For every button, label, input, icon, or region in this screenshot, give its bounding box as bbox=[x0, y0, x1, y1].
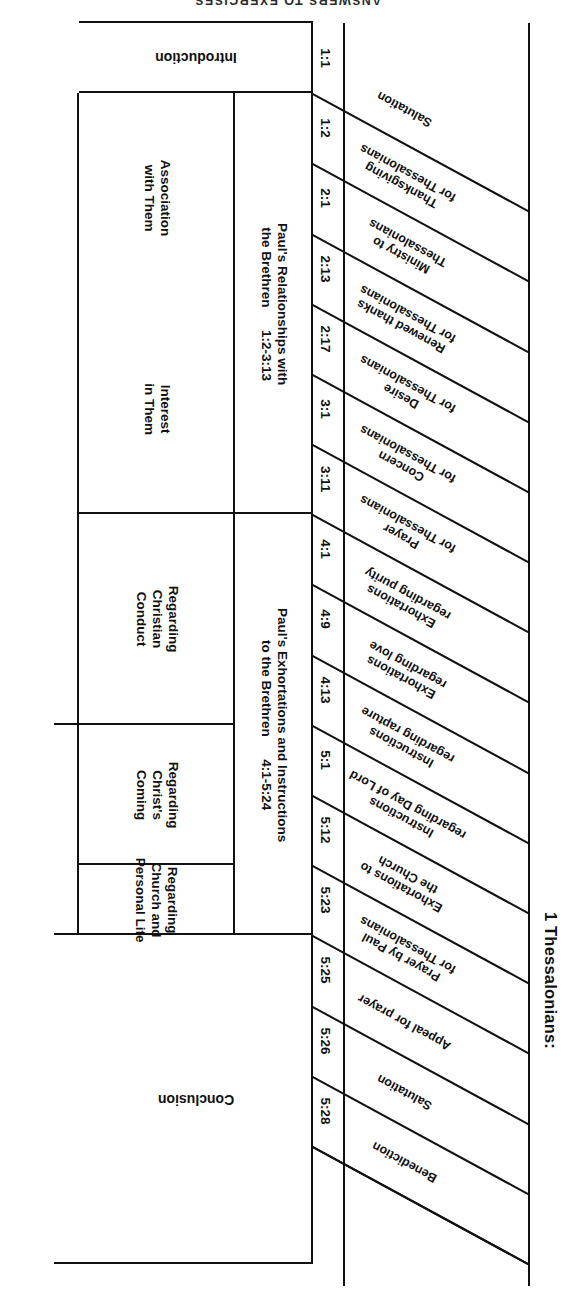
book-division-cell-conclusion: Conclusion bbox=[79, 935, 313, 1264]
sub-division-rule-mid bbox=[79, 512, 235, 514]
outline-chart: 1:1Salutation1:2Thanksgiving for Thessal… bbox=[0, 0, 575, 1309]
sub-division-label: Association with Them bbox=[141, 160, 173, 237]
sub-division-label: Regarding Christian Conduct bbox=[133, 586, 181, 653]
sub-division-label: Regarding Church and Personal Life bbox=[133, 858, 181, 943]
major-division-label: Paul's Exhortations and Instructions to … bbox=[258, 608, 290, 842]
book-division-cell-introduction: Introduction bbox=[79, 23, 313, 93]
major-division-label: Paul's Relationships with the Brethren 1… bbox=[258, 223, 290, 385]
book-division-label: Conclusion bbox=[158, 1091, 234, 1108]
chart-title: 1 Thessalonians: bbox=[541, 912, 560, 1049]
chart-canvas: 1:1Salutation1:2Thanksgiving for Thessal… bbox=[0, 0, 575, 1309]
sub-division-label: Regarding Christ's Coming bbox=[133, 762, 181, 829]
sub-division-cell: Regarding Christ's Coming bbox=[79, 725, 235, 865]
sub-division-label: Interest in Them bbox=[141, 383, 173, 435]
major-division-cell: Paul's Exhortations and Instructions to … bbox=[235, 514, 313, 935]
sub-division-cell: Interest in Them bbox=[79, 304, 235, 515]
sub-division-cell: Regarding Christian Conduct bbox=[79, 514, 235, 725]
book-division-label: Introduction bbox=[155, 50, 237, 67]
sub-division-cell: Association with Them bbox=[79, 93, 235, 304]
major-division-cell: Paul's Relationships with the Brethren 1… bbox=[235, 93, 313, 514]
sub-division-cell: Regarding Church and Personal Life bbox=[79, 865, 235, 935]
